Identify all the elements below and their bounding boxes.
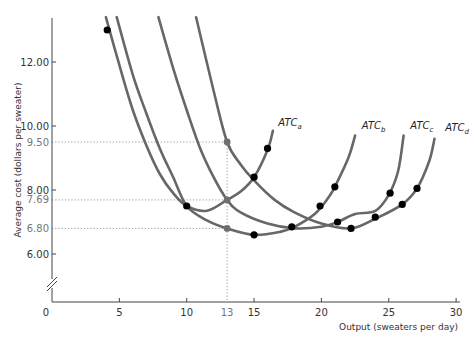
y-tick-label: 12.00 bbox=[20, 57, 49, 68]
y-axis-title: Average cost (dollars per sweater) bbox=[13, 82, 23, 237]
data-point-marker bbox=[288, 223, 295, 230]
data-point-marker bbox=[372, 214, 379, 221]
data-point-marker bbox=[250, 231, 257, 238]
y-tick-label: 10.00 bbox=[20, 121, 49, 132]
data-point-marker bbox=[399, 201, 406, 208]
data-point-marker bbox=[250, 174, 257, 181]
reference-point-marker bbox=[224, 139, 231, 146]
atc-chart: 12.0010.009.508.007.696.806.00 051013152… bbox=[0, 0, 474, 343]
data-point-marker bbox=[386, 190, 393, 197]
x-axis-ticks: 05101315202530 bbox=[43, 298, 463, 318]
data-point-marker bbox=[331, 183, 338, 190]
x-tick-label: 13 bbox=[221, 307, 234, 318]
reference-point-marker bbox=[224, 225, 231, 232]
curve-label-c: ATCc bbox=[409, 120, 433, 134]
curve-label-a: ATCa bbox=[277, 117, 302, 131]
data-point-marker bbox=[413, 185, 420, 192]
x-tick-label: 25 bbox=[382, 307, 395, 318]
data-point-marker bbox=[264, 145, 271, 152]
x-tick-label: 0 bbox=[43, 307, 49, 318]
dotted-guide-lines bbox=[52, 142, 227, 302]
data-point-marker bbox=[334, 218, 341, 225]
x-tick-label: 5 bbox=[116, 307, 122, 318]
y-axis-ticks: 12.0010.009.508.007.696.806.00 bbox=[20, 57, 56, 260]
axes bbox=[46, 18, 460, 302]
curve-atc-b bbox=[117, 17, 355, 235]
x-tick-label: 20 bbox=[315, 307, 328, 318]
reference-point-marker bbox=[224, 197, 231, 204]
curve-label-d: ATCd bbox=[444, 122, 469, 136]
data-point-marker bbox=[316, 202, 323, 209]
y-tick-label: 6.80 bbox=[27, 223, 49, 234]
curve-label-b: ATCb bbox=[361, 120, 386, 134]
y-tick-label: 7.69 bbox=[27, 194, 49, 205]
y-tick-label: 6.00 bbox=[27, 249, 49, 260]
x-tick-label: 15 bbox=[248, 307, 261, 318]
data-markers bbox=[104, 26, 421, 238]
curve-labels: ATCaATCbATCcATCd bbox=[277, 117, 469, 136]
data-point-marker bbox=[347, 225, 354, 232]
data-point-marker bbox=[183, 202, 190, 209]
x-axis-title: Output (sweaters per day) bbox=[339, 322, 458, 332]
data-point-marker bbox=[104, 26, 111, 33]
x-tick-label: 30 bbox=[450, 307, 463, 318]
x-tick-label: 10 bbox=[180, 307, 193, 318]
y-tick-label: 9.50 bbox=[27, 137, 49, 148]
